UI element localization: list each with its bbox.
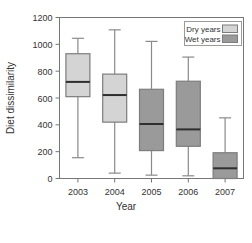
legend-swatch-1 [223, 35, 238, 43]
box-2005 [140, 89, 164, 150]
x-axis-title: Year [116, 201, 137, 212]
y-axis-title: Diet dissimilarity [5, 62, 16, 134]
y-tick-label-200: 200 [37, 147, 52, 157]
y-tick-label-400: 400 [37, 120, 52, 130]
y-tick-label-600: 600 [37, 94, 52, 104]
y-tick-label-800: 800 [37, 67, 52, 77]
x-tick-label-2004: 2004 [105, 187, 125, 197]
x-tick-label-2006: 2006 [178, 187, 198, 197]
x-tick-label-2007: 2007 [215, 187, 235, 197]
chart-figure: 0200400600800100012002003200420052006200… [0, 0, 252, 243]
box-2003 [66, 54, 90, 97]
y-tick-label-1000: 1000 [32, 40, 52, 50]
x-tick-label-2003: 2003 [68, 187, 88, 197]
boxplot-chart: 0200400600800100012002003200420052006200… [0, 0, 252, 243]
y-tick-label-1200: 1200 [32, 13, 52, 23]
box-2006 [176, 81, 200, 146]
legend-label-1: Wet years [185, 35, 221, 44]
legend-swatch-0 [223, 25, 238, 33]
x-tick-label-2005: 2005 [141, 187, 161, 197]
box-2007 [213, 153, 237, 179]
y-tick-label-0: 0 [47, 174, 52, 184]
box-2004 [103, 74, 127, 122]
legend-label-0: Dry years [186, 25, 220, 34]
